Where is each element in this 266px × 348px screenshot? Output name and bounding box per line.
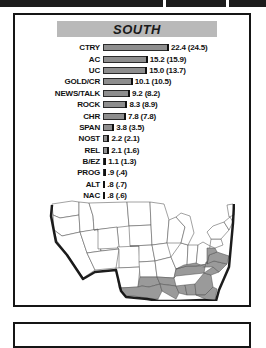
- chart-row: B/EZ1.1 (1.3): [15, 156, 249, 167]
- chart-row-label: SPAN: [15, 123, 103, 132]
- chart-row-value: 1.1 (1.3): [106, 157, 136, 166]
- chart-bar: [103, 44, 169, 51]
- chart-bar: [103, 56, 148, 63]
- chart-bar: [103, 124, 114, 131]
- chart-row-label: B/EZ: [15, 157, 103, 166]
- chart-row: ALT.8 (.7): [15, 179, 249, 190]
- chart-bar: [103, 169, 106, 176]
- chart-row-value: 22.4 (24.5): [169, 43, 208, 52]
- chart-row-value: 15.2 (15.9): [148, 55, 187, 64]
- chart-bar: [103, 101, 127, 108]
- next-region-panel: [13, 322, 251, 348]
- chart-row: AC15.2 (15.9): [15, 53, 249, 64]
- chart-row-label: NOST: [15, 134, 103, 143]
- chart-bar-area: 2.1 (1.6): [103, 145, 249, 156]
- chart-row-value: 8.3 (8.9): [127, 100, 157, 109]
- chart-row-label: ROCK: [15, 100, 103, 109]
- chart-bar-area: 15.2 (15.9): [103, 53, 249, 64]
- state-wy: [94, 227, 119, 249]
- chart-row-value: 2.2 (2.1): [109, 134, 139, 143]
- state-nd: [127, 202, 151, 226]
- chart-bar: [103, 67, 147, 74]
- chart-bar-area: 15.0 (13.7): [103, 65, 249, 76]
- chart-row: NOST2.2 (2.1): [15, 133, 249, 144]
- united-states-map: [31, 193, 235, 301]
- chart-row: PROG.9 (.4): [15, 167, 249, 178]
- chart-bar-area: 7.8 (7.8): [103, 110, 249, 121]
- chart-bar-area: 2.2 (2.1): [103, 133, 249, 144]
- chart-row: CHR7.8 (7.8): [15, 110, 249, 121]
- chart-row-label: ALT: [15, 180, 103, 189]
- chart-bar-area: 1.1 (1.3): [103, 156, 249, 167]
- state-sd: [129, 225, 152, 246]
- chart-bar: [103, 90, 130, 97]
- chart-row-value: 9.2 (8.2): [130, 89, 160, 98]
- chart-row: REL2.1 (1.6): [15, 145, 249, 156]
- chart-row-value: .8 (.7): [105, 180, 127, 189]
- chart-row-label: GOLD/CR: [15, 77, 103, 86]
- chart-bar-area: 9.2 (8.2): [103, 88, 249, 99]
- region-panel-south: SOUTH CTRY22.4 (24.5)AC15.2 (15.9)UC15.0…: [13, 13, 251, 307]
- scan-edge-gap: [226, 0, 229, 7]
- state-ks: [139, 261, 157, 277]
- us-map-svg: [31, 193, 235, 301]
- state-mt: [89, 202, 129, 230]
- chart-bar-area: 22.4 (24.5): [103, 42, 249, 53]
- chart-row: CTRY22.4 (24.5): [15, 42, 249, 53]
- chart-row-label: CTRY: [15, 43, 103, 52]
- state-al: [185, 284, 196, 295]
- chart-row-value: 7.8 (7.8): [126, 112, 156, 121]
- chart-row: SPAN3.8 (3.5): [15, 122, 249, 133]
- chart-row-label: REL: [15, 146, 103, 155]
- chart-row-label: CHR: [15, 112, 103, 121]
- chart-bar-area: 3.8 (3.5): [103, 122, 249, 133]
- chart-row: GOLD/CR10.1 (10.5): [15, 76, 249, 87]
- chart-bar-area: 10.1 (10.5): [103, 76, 249, 87]
- chart-bar-area: .9 (.4): [103, 167, 249, 178]
- chart-row-value: 10.1 (10.5): [133, 77, 172, 86]
- chart-bar: [103, 113, 126, 120]
- chart-bar: [103, 135, 109, 142]
- chart-bar-area: .8 (.7): [103, 179, 249, 190]
- chart-row-label: AC: [15, 55, 103, 64]
- state-mn: [150, 202, 169, 245]
- chart-bar: [103, 147, 109, 154]
- scan-edge-strip: [0, 0, 266, 7]
- state-pa: [210, 239, 223, 248]
- chart-row-value: 3.8 (3.5): [114, 123, 144, 132]
- chart-row: ROCK8.3 (8.9): [15, 99, 249, 110]
- scan-edge-gap: [163, 0, 166, 7]
- chart-row-value: 15.0 (13.7): [147, 66, 186, 75]
- chart-row-value: .9 (.4): [106, 168, 128, 177]
- chart-row: NEWS/TALK9.2 (8.2): [15, 88, 249, 99]
- chart-row-label: NEWS/TALK: [15, 89, 103, 98]
- chart-row-label: PROG: [15, 168, 103, 177]
- chart-row: UC15.0 (13.7): [15, 65, 249, 76]
- chart-bar: [103, 158, 106, 165]
- chart-bar: [103, 181, 105, 188]
- state-co: [117, 246, 140, 268]
- chart-row-value: 2.1 (1.6): [109, 146, 139, 155]
- panel-title-banner: SOUTH: [57, 21, 217, 37]
- chart-bar: [103, 78, 133, 85]
- chart-bar-area: 8.3 (8.9): [103, 99, 249, 110]
- chart-row-label: UC: [15, 66, 103, 75]
- page-title: SOUTH: [113, 22, 161, 37]
